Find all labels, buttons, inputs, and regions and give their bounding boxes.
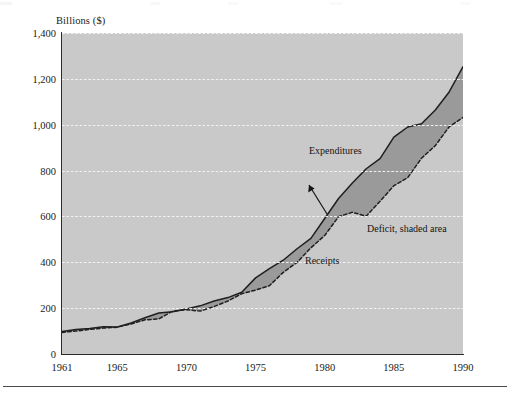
y-axis-tick-label: 600 bbox=[10, 211, 56, 222]
x-axis-line bbox=[61, 354, 464, 355]
gridline bbox=[62, 33, 463, 34]
plot-area: Expenditures Deficit, shaded area Receip… bbox=[62, 33, 463, 354]
chart-figure: Billions ($) 02004006008001,0001,2001,40… bbox=[0, 0, 510, 401]
y-axis-tick-label: 400 bbox=[10, 257, 56, 268]
page-divider-rule bbox=[3, 386, 507, 387]
deficit-arrow-icon bbox=[308, 185, 327, 214]
chart-series-svg bbox=[62, 33, 463, 354]
x-axis-tick-label: 1970 bbox=[176, 362, 197, 373]
receipts-label: Receipts bbox=[305, 255, 339, 266]
y-axis-tick-label: 200 bbox=[10, 303, 56, 314]
deficit-shaded-area bbox=[62, 67, 463, 333]
x-axis-tick-label: 1980 bbox=[314, 362, 335, 373]
gridline bbox=[62, 262, 463, 263]
y-axis-tick-label: 1,000 bbox=[10, 119, 56, 130]
expenditures-line bbox=[62, 67, 463, 332]
x-axis-tick-label: 1965 bbox=[107, 362, 128, 373]
x-axis-tick-label: 1961 bbox=[52, 362, 73, 373]
deficit-label: Deficit, shaded area bbox=[367, 223, 447, 234]
gridline bbox=[62, 171, 463, 172]
gridline bbox=[62, 125, 463, 126]
y-axis-tick-label: 1,400 bbox=[10, 28, 56, 39]
x-axis-tick-label: 1985 bbox=[383, 362, 404, 373]
scan-artifact-strip bbox=[0, 2, 510, 5]
gridline bbox=[62, 308, 463, 309]
x-axis-tick-label: 1990 bbox=[453, 362, 474, 373]
y-axis-title: Billions ($) bbox=[56, 15, 105, 26]
y-axis-tick-label: 0 bbox=[10, 349, 56, 360]
gridline bbox=[62, 216, 463, 217]
expenditures-label: Expenditures bbox=[309, 145, 362, 156]
y-axis-line bbox=[61, 32, 62, 355]
y-axis-tick-label: 800 bbox=[10, 165, 56, 176]
x-axis-tick-label: 1975 bbox=[245, 362, 266, 373]
gridline bbox=[62, 79, 463, 80]
y-axis-tick-label: 1,200 bbox=[10, 73, 56, 84]
